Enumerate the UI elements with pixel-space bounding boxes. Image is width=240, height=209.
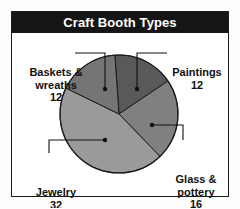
pie-label-jewelry-value: 32 xyxy=(23,199,89,209)
pie-label-glass-pottery-line2: pottery xyxy=(164,186,228,199)
chart-figure: Craft Booth Types xyxy=(11,11,229,197)
pie-label-baskets-wreaths-line2: wreaths xyxy=(25,79,87,92)
pie-label-jewelry: Jewelry 32 xyxy=(23,186,89,208)
pie-chart-plot-area: Baskets & wreaths 12 Paintings 12 Glass … xyxy=(12,33,228,197)
pie-label-paintings-value: 12 xyxy=(164,79,230,92)
pie-label-baskets-wreaths: Baskets & wreaths 12 xyxy=(25,66,87,104)
leader-dot-jewelry xyxy=(103,138,107,142)
pie-label-glass-pottery-value: 16 xyxy=(164,198,228,208)
leader-dot-baskets xyxy=(103,87,107,91)
pie-label-baskets-wreaths-value: 12 xyxy=(25,91,87,104)
pie-label-jewelry-line1: Jewelry xyxy=(23,186,89,199)
pie-label-glass-pottery: Glass & pottery 16 xyxy=(164,173,228,208)
leader-dot-paintings xyxy=(135,87,139,91)
pie-label-paintings-line1: Paintings xyxy=(164,66,230,79)
leader-dot-glass xyxy=(150,123,154,127)
pie-label-baskets-wreaths-line1: Baskets & xyxy=(25,66,87,79)
pie-label-glass-pottery-line1: Glass & xyxy=(164,173,228,186)
pie-label-paintings: Paintings 12 xyxy=(164,66,230,91)
